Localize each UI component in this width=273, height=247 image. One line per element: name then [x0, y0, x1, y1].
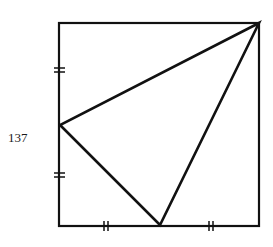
problem-number-label: 137 [8, 130, 28, 146]
square [59, 23, 259, 226]
inscribed-triangle [60, 23, 259, 225]
geometry-figure [0, 0, 273, 247]
diagram-canvas: 137 [0, 0, 273, 247]
